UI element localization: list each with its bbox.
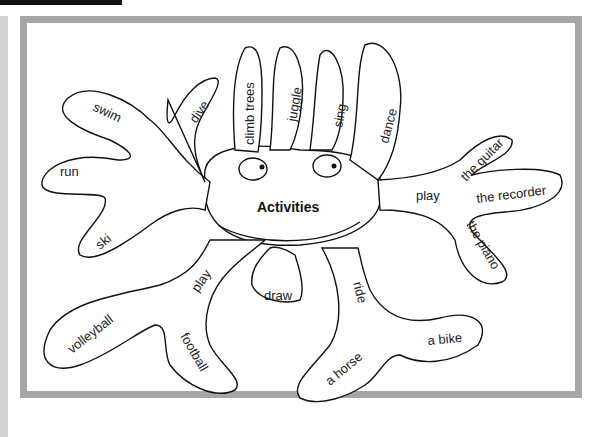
right-pupil xyxy=(332,164,337,169)
right-eye xyxy=(313,155,341,177)
label-sing: sing xyxy=(330,102,349,128)
label-run: run xyxy=(60,164,79,179)
center-title: Activities xyxy=(257,199,319,215)
tentacle-play-music xyxy=(378,136,562,284)
tentacle-sing xyxy=(310,51,343,150)
label-a-bike: a bike xyxy=(427,330,463,348)
label-climb-trees: climb trees xyxy=(242,82,257,145)
mind-map: Activities swim dive run ski climb trees… xyxy=(0,0,600,437)
left-pupil xyxy=(260,165,265,170)
label-play-music: play xyxy=(416,188,440,203)
label-draw: draw xyxy=(264,288,293,303)
tentacle-play-sport xyxy=(44,240,265,393)
